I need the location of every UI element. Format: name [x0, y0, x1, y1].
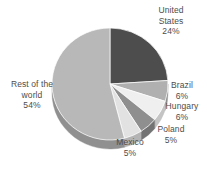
slice-label-united-states: United States 24%	[140, 5, 202, 37]
slice-label-brazil: Brazil 6%	[160, 80, 204, 101]
slice-label-poland: Poland 5%	[148, 124, 194, 145]
slice-label-rest-of-the-world: Rest of the world 54%	[2, 79, 62, 111]
pie-chart: United States 24% Brazil 6% Hungary 6% P…	[0, 0, 207, 177]
slice-label-hungary: Hungary 6%	[158, 101, 206, 122]
slice-label-mexico: Mexico 5%	[108, 137, 152, 158]
